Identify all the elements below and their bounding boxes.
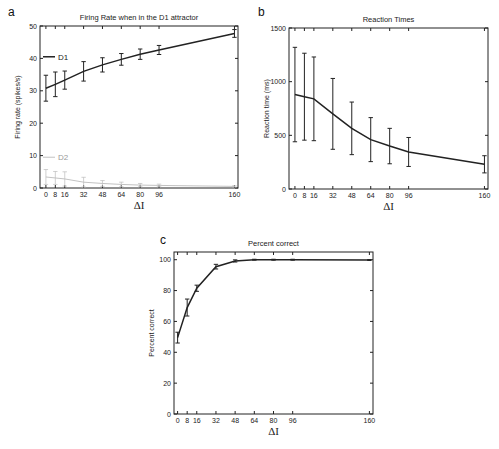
series-rt xyxy=(293,47,487,173)
chart-panel-b-reaction-times: bReaction Times0500100015000816324864809… xyxy=(258,5,490,212)
x-tick-label: 48 xyxy=(99,191,107,198)
x-tick-label: 64 xyxy=(367,192,375,199)
chart-title: Firing Rate when in the D1 attractor xyxy=(80,13,199,22)
x-tick-label: 16 xyxy=(193,417,201,424)
x-tick-label: 16 xyxy=(61,191,69,198)
x-tick-label: 48 xyxy=(231,417,239,424)
x-axis-label: ΔI xyxy=(268,425,279,437)
y-tick-label: 100 xyxy=(159,256,171,263)
x-tick-label: 8 xyxy=(185,417,189,424)
x-tick-label: 32 xyxy=(329,192,337,199)
y-tick-label: 1500 xyxy=(270,25,286,32)
y-axis-label: Percent correct xyxy=(148,309,155,357)
legend-label: D1 xyxy=(58,53,69,62)
y-tick-label: 20 xyxy=(163,380,171,387)
y-tick-label: 20 xyxy=(29,120,37,127)
y-tick-label: 0 xyxy=(282,186,286,193)
chart-title: Percent correct xyxy=(248,239,300,248)
legend: D1D2 xyxy=(43,53,69,162)
panel-letter: a xyxy=(8,5,15,19)
y-tick-label: 40 xyxy=(29,55,37,62)
x-tick-label: 64 xyxy=(117,191,125,198)
x-tick-label: 32 xyxy=(80,191,88,198)
y-tick-label: 60 xyxy=(163,318,171,325)
x-tick-label: 80 xyxy=(386,192,394,199)
y-axis-label: Reaction time (ms) xyxy=(263,79,271,138)
y-tick-label: 0 xyxy=(33,185,37,192)
legend-label: D2 xyxy=(58,153,69,162)
x-tick-label: 64 xyxy=(250,417,258,424)
x-tick-label: 0 xyxy=(293,192,297,199)
figure-canvas: aFiring Rate when in the D1 attractor010… xyxy=(0,0,499,449)
series-correct xyxy=(175,259,371,343)
series-d2 xyxy=(44,170,237,187)
x-tick-label: 96 xyxy=(405,192,413,199)
x-tick-label: 96 xyxy=(289,417,297,424)
y-tick-label: 0 xyxy=(167,411,171,418)
x-axis-label: ΔI xyxy=(383,200,394,212)
x-tick-label: 0 xyxy=(176,417,180,424)
x-tick-label: 8 xyxy=(53,191,57,198)
y-tick-label: 80 xyxy=(163,287,171,294)
y-tick-label: 40 xyxy=(163,349,171,356)
y-tick-label: 1000 xyxy=(270,78,286,85)
plot-frame xyxy=(40,26,238,188)
plot-frame xyxy=(174,252,373,414)
panel-letter: c xyxy=(160,233,166,247)
y-axis-label: Firing rate (spikes/s) xyxy=(14,75,22,138)
y-tick-label: 30 xyxy=(29,87,37,94)
chart-panel-c-percent-correct: cPercent correct020406080100081632486480… xyxy=(148,233,375,437)
x-tick-label: 96 xyxy=(155,191,163,198)
x-tick-label: 160 xyxy=(479,192,491,199)
y-tick-label: 10 xyxy=(29,152,37,159)
x-tick-label: 8 xyxy=(302,192,306,199)
series-line xyxy=(46,33,235,88)
x-axis-label: ΔI xyxy=(134,199,145,211)
panel-letter: b xyxy=(258,5,265,19)
y-tick-label: 500 xyxy=(274,132,286,139)
chart-title: Reaction Times xyxy=(363,15,415,24)
plot-frame xyxy=(289,28,488,189)
x-tick-label: 32 xyxy=(212,417,220,424)
series-d1 xyxy=(44,30,237,102)
series-line xyxy=(178,260,370,338)
x-tick-label: 80 xyxy=(270,417,278,424)
x-tick-label: 160 xyxy=(364,417,376,424)
x-tick-label: 48 xyxy=(348,192,356,199)
chart-panel-a-firing-rate: aFiring Rate when in the D1 attractor010… xyxy=(8,5,240,211)
x-tick-label: 0 xyxy=(44,191,48,198)
x-tick-label: 160 xyxy=(229,191,241,198)
y-tick-label: 50 xyxy=(29,23,37,30)
x-tick-label: 80 xyxy=(136,191,144,198)
x-tick-label: 16 xyxy=(310,192,318,199)
